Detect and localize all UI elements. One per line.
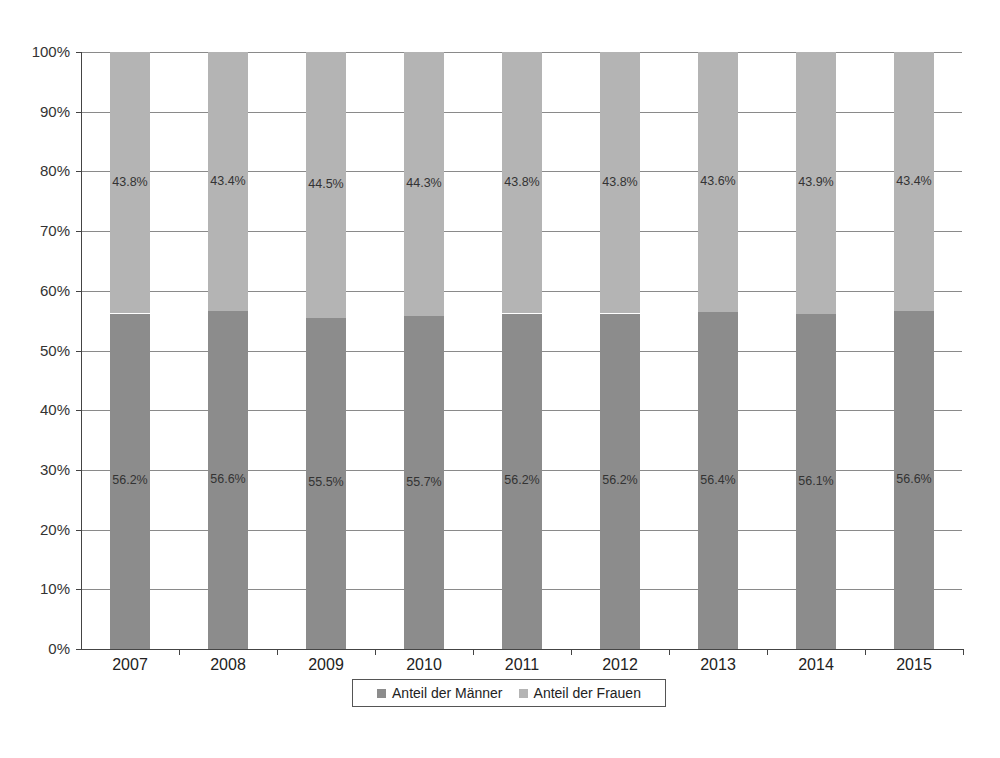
data-label-maenner: 56.6% <box>202 472 254 486</box>
x-tick-mark <box>865 649 866 655</box>
x-tick-mark <box>277 649 278 655</box>
x-tick-label: 2010 <box>384 656 464 674</box>
data-label-frauen: 43.9% <box>790 175 842 189</box>
legend-swatch-frauen <box>519 689 528 698</box>
x-tick-mark <box>571 649 572 655</box>
y-tick-mark <box>76 291 82 292</box>
data-label-maenner: 56.2% <box>496 473 548 487</box>
bar-2007: 56.2%43.8% <box>110 52 150 649</box>
data-label-maenner: 56.4% <box>692 473 744 487</box>
y-tick-label: 100% <box>20 43 70 60</box>
bar-2015: 56.6%43.4% <box>894 52 934 649</box>
x-tick-mark <box>669 649 670 655</box>
legend-item-frauen: Anteil der Frauen <box>519 685 641 701</box>
x-tick-mark <box>179 649 180 655</box>
x-tick-mark <box>375 649 376 655</box>
x-axis-line <box>81 649 963 650</box>
y-tick-mark <box>76 410 82 411</box>
data-label-maenner: 56.2% <box>594 473 646 487</box>
data-label-frauen: 44.3% <box>398 176 450 190</box>
data-label-maenner: 55.7% <box>398 475 450 489</box>
data-label-frauen: 43.8% <box>594 175 646 189</box>
y-tick-label: 0% <box>20 640 70 657</box>
y-tick-mark <box>76 52 82 53</box>
bar-2009: 55.5%44.5% <box>306 52 346 649</box>
data-label-maenner: 56.6% <box>888 472 940 486</box>
y-tick-label: 90% <box>20 103 70 120</box>
data-label-maenner: 56.2% <box>104 473 156 487</box>
y-tick-mark <box>76 649 82 650</box>
stacked-bar-chart: 56.2%43.8%56.6%43.4%55.5%44.5%55.7%44.3%… <box>0 0 1000 758</box>
x-tick-mark <box>963 649 964 655</box>
x-tick-label: 2015 <box>874 656 954 674</box>
data-label-maenner: 56.1% <box>790 474 842 488</box>
y-tick-label: 40% <box>20 401 70 418</box>
y-tick-label: 50% <box>20 342 70 359</box>
bar-2013: 56.4%43.6% <box>698 52 738 649</box>
legend-swatch-maenner <box>377 689 386 698</box>
x-tick-label: 2013 <box>678 656 758 674</box>
x-tick-mark <box>473 649 474 655</box>
y-tick-mark <box>76 171 82 172</box>
legend: Anteil der Männer Anteil der Frauen <box>352 679 666 707</box>
bar-2010: 55.7%44.3% <box>404 52 444 649</box>
bar-2008: 56.6%43.4% <box>208 52 248 649</box>
x-tick-mark <box>767 649 768 655</box>
bar-2011: 56.2%43.8% <box>502 52 542 649</box>
y-tick-mark <box>76 470 82 471</box>
y-tick-mark <box>76 589 82 590</box>
x-tick-label: 2012 <box>580 656 660 674</box>
y-tick-label: 30% <box>20 461 70 478</box>
y-tick-label: 70% <box>20 222 70 239</box>
y-tick-label: 60% <box>20 282 70 299</box>
data-label-frauen: 43.4% <box>202 174 254 188</box>
data-label-frauen: 43.6% <box>692 174 744 188</box>
x-tick-label: 2008 <box>188 656 268 674</box>
data-label-frauen: 43.8% <box>104 175 156 189</box>
y-tick-mark <box>76 530 82 531</box>
data-label-maenner: 55.5% <box>300 475 352 489</box>
data-label-frauen: 44.5% <box>300 177 352 191</box>
y-tick-mark <box>76 112 82 113</box>
y-tick-label: 10% <box>20 580 70 597</box>
legend-item-maenner: Anteil der Männer <box>377 685 503 701</box>
x-tick-label: 2011 <box>482 656 562 674</box>
legend-label-frauen: Anteil der Frauen <box>534 685 641 701</box>
x-tick-label: 2007 <box>90 656 170 674</box>
y-tick-label: 20% <box>20 521 70 538</box>
x-tick-label: 2014 <box>776 656 856 674</box>
y-tick-label: 80% <box>20 162 70 179</box>
bar-2012: 56.2%43.8% <box>600 52 640 649</box>
data-label-frauen: 43.4% <box>888 174 940 188</box>
y-tick-mark <box>76 351 82 352</box>
y-tick-mark <box>76 231 82 232</box>
bar-2014: 56.1%43.9% <box>796 52 836 649</box>
x-tick-label: 2009 <box>286 656 366 674</box>
legend-label-maenner: Anteil der Männer <box>392 685 503 701</box>
data-label-frauen: 43.8% <box>496 175 548 189</box>
